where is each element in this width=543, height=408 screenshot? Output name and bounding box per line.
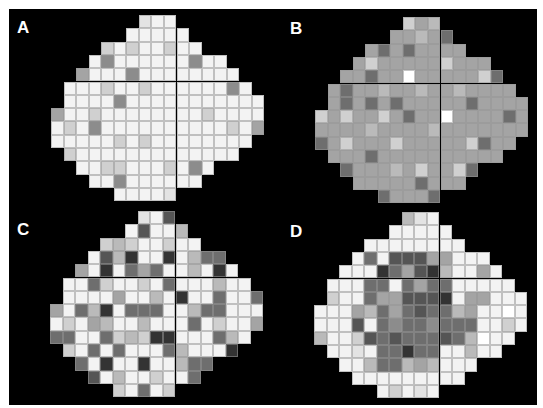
grid-cell [114,188,127,201]
grid-cell [126,28,139,41]
grid-cell [164,15,177,28]
grid-cell [377,252,390,265]
grid-cell [415,110,428,123]
grid-cell [440,358,453,371]
grid-cell [478,123,491,136]
grid-cell [89,161,102,174]
grid-cell [151,121,164,134]
grid-cell [378,137,391,150]
grid-cell [339,279,352,292]
grid-cell [364,252,377,265]
grid-cell [177,175,190,188]
grid-cell [389,318,402,331]
grid-cell [227,95,240,108]
grid-cell [251,317,264,330]
grid-cell [491,150,504,163]
grid-cell [126,108,139,121]
grid-cell [177,68,190,81]
grid-cell [427,345,440,358]
grid-cell [364,318,377,331]
grid-cell [441,177,454,190]
grid-cell [189,108,202,121]
grid-cell [364,239,377,252]
grid-cell [441,150,454,163]
grid-cell [75,278,88,291]
grid-cell [239,82,252,95]
grid-cell [201,317,214,330]
grid-cell [403,123,416,136]
grid-cell [125,291,138,304]
grid-cell [201,291,214,304]
grid-cell [477,318,490,331]
grid-cell [150,251,163,264]
grid-cell [51,121,64,134]
grid-cell [177,135,190,148]
grid-cell [238,317,251,330]
grid-cell [452,332,465,345]
grid-cell [76,82,89,95]
grid-cell [365,150,378,163]
grid-cell [378,70,391,83]
grid-cell [389,372,402,385]
grid-cell [340,150,353,163]
grid-cell [402,332,415,345]
grid-cell [227,68,240,81]
grid-cell [465,332,478,345]
grid-cell [163,331,176,344]
grid-cell [389,358,402,371]
grid-cell [466,70,479,83]
grid-cell [100,357,113,370]
grid-cell [138,251,151,264]
grid-cell [177,82,190,95]
grid-cell [453,163,466,176]
grid-cell [477,279,490,292]
grid-cell [466,84,479,97]
grid-cell [163,304,176,317]
grid-cell [64,108,77,121]
grid-cell [150,344,163,357]
grid-cell [63,317,76,330]
grid-cell [138,238,151,251]
grid-cell [453,70,466,83]
grid-cell [139,68,152,81]
grid-cell [139,28,152,41]
grid-cell [189,121,202,134]
grid-cell [100,331,113,344]
grid-cell [327,332,340,345]
grid-cell [490,345,503,358]
grid-cell [189,135,202,148]
grid-cell [76,161,89,174]
grid-cell [403,30,416,43]
grid-cell [101,82,114,95]
grid-cell [88,304,101,317]
grid-cell [100,251,113,264]
grid-cell [414,212,427,225]
grid-cell [352,305,365,318]
grid-cell [428,30,441,43]
grid-cell [390,190,403,203]
grid-cell [516,110,529,123]
grid-cell [365,163,378,176]
grid-cell [125,317,138,330]
grid-cell [365,110,378,123]
grid-cell [440,318,453,331]
grid-cell [441,70,454,83]
grid-cell [415,123,428,136]
grid-cell [414,385,427,398]
grid-cell [238,331,251,344]
grid-cell [202,95,215,108]
grid-cell [414,305,427,318]
grid-cell [427,372,440,385]
grid-cell [151,68,164,81]
grid-cell [125,224,138,237]
grid-cell [151,135,164,148]
grid-cell [466,57,479,70]
grid-cell [327,279,340,292]
grid-cell [50,304,63,317]
grid-cell [164,148,177,161]
grid-cell [490,332,503,345]
grid-cell [466,110,479,123]
grid-cell [126,188,139,201]
grid-cell [126,148,139,161]
grid-cell [515,305,528,318]
